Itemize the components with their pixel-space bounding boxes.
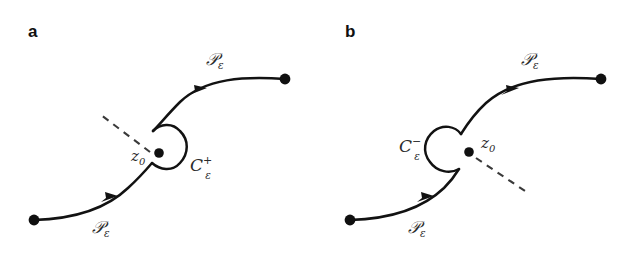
panel-b-upper-path (461, 78, 601, 134)
panel-b-upper-path-label-sub: ε (533, 59, 539, 71)
panel-a-contour-label: C+ε (190, 154, 212, 181)
panel-b-lower-path-label: 𝒫ε (408, 217, 426, 239)
panel-a-upper-path-label: 𝒫ε (206, 49, 224, 71)
panel-a-lower-path-label: 𝒫ε (92, 217, 110, 239)
panel-a-end-endpoint-dot (280, 74, 291, 85)
panel-b-upper-path-label: 𝒫ε (521, 49, 539, 71)
panel-b-lower-path-label-sub: ε (420, 227, 426, 239)
panel-b-contour-label: C−ε (399, 135, 421, 162)
panel-a-indentation-arc (152, 125, 187, 169)
panel-b-contour-label-sub: ε (414, 150, 420, 162)
panel-a-upper-path (153, 78, 285, 131)
panel-a-contour-label-sup: + (203, 154, 212, 167)
panel-a-contour-label-sub: ε (205, 169, 211, 181)
panel-b-start-endpoint-dot (345, 215, 356, 226)
panel-a-contour-label-base: C (190, 155, 203, 175)
panel-b-end-endpoint-dot (596, 74, 607, 85)
panel-b-lower-path (350, 169, 459, 220)
panel-a-lower-path-label-sub: ε (104, 227, 110, 239)
panel-a-branch-cut (101, 115, 150, 152)
panel-b-branch-cut (476, 158, 528, 193)
panel-a-pole-label-sub: 0 (139, 156, 146, 167)
panel-a-start-endpoint-dot (29, 215, 40, 226)
panel-b-contour-label-base: C (399, 136, 412, 156)
panel-b-pole-dot (464, 147, 474, 157)
panel-a-pole-dot (154, 148, 164, 158)
contour-integration-figure: a z0 C+ε 𝒫ε 𝒫ε b (0, 0, 637, 253)
panel-b: b z0 C−ε 𝒫ε 𝒫ε (345, 22, 607, 239)
panel-a-upper-path-label-sub: ε (218, 59, 224, 71)
panel-a-lower-path (34, 163, 152, 220)
panel-a-pole-label: z0 (130, 147, 146, 167)
panel-b-indentation-arc (425, 127, 461, 172)
panel-b-letter: b (345, 22, 355, 41)
panel-b-pole-label-base: z (480, 134, 489, 152)
panel-a-pole-label-base: z (130, 147, 139, 165)
panel-a: a z0 C+ε 𝒫ε 𝒫ε (28, 22, 290, 239)
panel-b-pole-label: z0 (480, 134, 496, 154)
panel-b-pole-label-sub: 0 (489, 143, 496, 154)
panel-b-contour-label-sup: − (412, 135, 421, 148)
panel-a-letter: a (28, 22, 38, 41)
